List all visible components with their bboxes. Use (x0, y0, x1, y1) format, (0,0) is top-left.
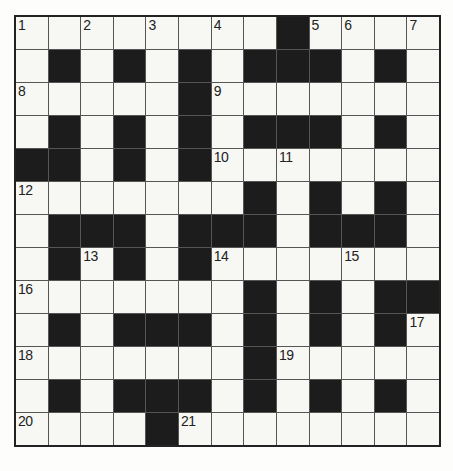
white-cell-r8c8[interactable] (244, 248, 276, 280)
white-cell-r13c6[interactable]: 21 (179, 413, 211, 445)
white-cell-r5c11[interactable] (342, 149, 374, 181)
white-cell-r11c4[interactable] (114, 347, 146, 379)
white-cell-r12c3[interactable] (81, 380, 113, 412)
white-cell-r3c9[interactable] (277, 83, 309, 115)
white-cell-r3c5[interactable] (146, 83, 178, 115)
white-cell-r6c13[interactable] (407, 182, 439, 214)
white-cell-r8c1[interactable] (16, 248, 48, 280)
white-cell-r8c10[interactable] (310, 248, 342, 280)
white-cell-r8c5[interactable] (146, 248, 178, 280)
white-cell-r2c3[interactable] (81, 50, 113, 82)
white-cell-r8c3[interactable]: 13 (81, 248, 113, 280)
white-cell-r5c5[interactable] (146, 149, 178, 181)
white-cell-r2c7[interactable] (212, 50, 244, 82)
white-cell-r2c13[interactable] (407, 50, 439, 82)
white-cell-r7c9[interactable] (277, 215, 309, 247)
white-cell-r11c2[interactable] (49, 347, 81, 379)
white-cell-r6c5[interactable] (146, 182, 178, 214)
white-cell-r9c9[interactable] (277, 281, 309, 313)
white-cell-r3c1[interactable]: 8 (16, 83, 48, 115)
white-cell-r2c5[interactable] (146, 50, 178, 82)
white-cell-r10c11[interactable] (342, 314, 374, 346)
white-cell-r1c5[interactable]: 3 (146, 17, 178, 49)
white-cell-r1c6[interactable] (179, 17, 211, 49)
white-cell-r5c8[interactable] (244, 149, 276, 181)
white-cell-r8c9[interactable] (277, 248, 309, 280)
white-cell-r3c12[interactable] (375, 83, 407, 115)
white-cell-r11c13[interactable] (407, 347, 439, 379)
white-cell-r6c1[interactable]: 12 (16, 182, 48, 214)
white-cell-r4c7[interactable] (212, 116, 244, 148)
white-cell-r3c3[interactable] (81, 83, 113, 115)
white-cell-r13c8[interactable] (244, 413, 276, 445)
white-cell-r4c11[interactable] (342, 116, 374, 148)
white-cell-r12c1[interactable] (16, 380, 48, 412)
white-cell-r9c7[interactable] (212, 281, 244, 313)
white-cell-r13c9[interactable] (277, 413, 309, 445)
white-cell-r5c10[interactable] (310, 149, 342, 181)
white-cell-r9c3[interactable] (81, 281, 113, 313)
white-cell-r10c7[interactable] (212, 314, 244, 346)
white-cell-r12c7[interactable] (212, 380, 244, 412)
white-cell-r12c13[interactable] (407, 380, 439, 412)
white-cell-r6c6[interactable] (179, 182, 211, 214)
white-cell-r12c9[interactable] (277, 380, 309, 412)
white-cell-r13c11[interactable] (342, 413, 374, 445)
white-cell-r13c13[interactable] (407, 413, 439, 445)
white-cell-r4c1[interactable] (16, 116, 48, 148)
white-cell-r3c13[interactable] (407, 83, 439, 115)
white-cell-r10c9[interactable] (277, 314, 309, 346)
white-cell-r1c12[interactable] (375, 17, 407, 49)
white-cell-r1c7[interactable]: 4 (212, 17, 244, 49)
white-cell-r11c5[interactable] (146, 347, 178, 379)
white-cell-r7c1[interactable] (16, 215, 48, 247)
white-cell-r3c4[interactable] (114, 83, 146, 115)
white-cell-r11c3[interactable] (81, 347, 113, 379)
white-cell-r10c1[interactable] (16, 314, 48, 346)
white-cell-r12c11[interactable] (342, 380, 374, 412)
white-cell-r3c2[interactable] (49, 83, 81, 115)
white-cell-r5c13[interactable] (407, 149, 439, 181)
white-cell-r3c11[interactable] (342, 83, 374, 115)
white-cell-r5c3[interactable] (81, 149, 113, 181)
white-cell-r11c10[interactable] (310, 347, 342, 379)
white-cell-r6c2[interactable] (49, 182, 81, 214)
white-cell-r3c10[interactable] (310, 83, 342, 115)
white-cell-r11c7[interactable] (212, 347, 244, 379)
white-cell-r1c11[interactable]: 6 (342, 17, 374, 49)
white-cell-r11c11[interactable] (342, 347, 374, 379)
white-cell-r13c1[interactable]: 20 (16, 413, 48, 445)
white-cell-r13c2[interactable] (49, 413, 81, 445)
white-cell-r9c5[interactable] (146, 281, 178, 313)
white-cell-r9c4[interactable] (114, 281, 146, 313)
white-cell-r9c11[interactable] (342, 281, 374, 313)
white-cell-r9c1[interactable]: 16 (16, 281, 48, 313)
white-cell-r5c9[interactable]: 11 (277, 149, 309, 181)
white-cell-r1c10[interactable]: 5 (310, 17, 342, 49)
white-cell-r6c3[interactable] (81, 182, 113, 214)
white-cell-r6c7[interactable] (212, 182, 244, 214)
white-cell-r8c11[interactable]: 15 (342, 248, 374, 280)
white-cell-r6c9[interactable] (277, 182, 309, 214)
white-cell-r3c7[interactable]: 9 (212, 83, 244, 115)
white-cell-r7c5[interactable] (146, 215, 178, 247)
white-cell-r2c11[interactable] (342, 50, 374, 82)
white-cell-r1c13[interactable]: 7 (407, 17, 439, 49)
white-cell-r13c7[interactable] (212, 413, 244, 445)
white-cell-r1c1[interactable]: 1 (16, 17, 48, 49)
white-cell-r13c4[interactable] (114, 413, 146, 445)
white-cell-r10c13[interactable]: 17 (407, 314, 439, 346)
white-cell-r11c6[interactable] (179, 347, 211, 379)
white-cell-r8c12[interactable] (375, 248, 407, 280)
white-cell-r9c6[interactable] (179, 281, 211, 313)
white-cell-r6c4[interactable] (114, 182, 146, 214)
white-cell-r11c12[interactable] (375, 347, 407, 379)
white-cell-r6c11[interactable] (342, 182, 374, 214)
white-cell-r5c12[interactable] (375, 149, 407, 181)
white-cell-r8c7[interactable]: 14 (212, 248, 244, 280)
white-cell-r9c2[interactable] (49, 281, 81, 313)
white-cell-r1c2[interactable] (49, 17, 81, 49)
white-cell-r11c9[interactable]: 19 (277, 347, 309, 379)
white-cell-r1c8[interactable] (244, 17, 276, 49)
white-cell-r13c12[interactable] (375, 413, 407, 445)
